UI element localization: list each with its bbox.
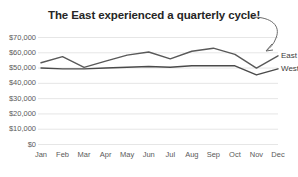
y-axis-tick-label: $10,000 xyxy=(0,124,36,133)
y-axis-tick-label: $60,000 xyxy=(0,48,36,57)
y-axis-tick-label: $30,000 xyxy=(0,94,36,103)
curved-arrow-annotation xyxy=(252,17,277,51)
legend-label-west: West xyxy=(281,64,298,73)
x-axis-tick-label: Aug xyxy=(180,150,204,159)
x-axis-tick-label: Jun xyxy=(137,150,161,159)
x-axis-tick-label: Nov xyxy=(244,150,268,159)
gridlines xyxy=(38,38,278,145)
y-axis-tick-label: $40,000 xyxy=(0,78,36,87)
series-line-west xyxy=(41,66,278,75)
legend-label-east: East xyxy=(281,51,297,60)
x-axis-tick-label: Jan xyxy=(29,150,53,159)
series-line-east xyxy=(41,48,278,68)
x-axis-tick-label: Oct xyxy=(223,150,247,159)
y-axis-tick-label: $20,000 xyxy=(0,109,36,118)
x-axis-tick-label: Jul xyxy=(158,150,182,159)
x-axis-tick-label: Sep xyxy=(201,150,225,159)
line-chart: The East experienced a quarterly cycle! … xyxy=(0,0,298,177)
y-axis-tick-label: $0 xyxy=(0,140,36,149)
y-axis-tick-label: $70,000 xyxy=(0,33,36,42)
x-axis-tick-label: Feb xyxy=(51,150,75,159)
x-axis-tick-label: May xyxy=(115,150,139,159)
x-axis-tick-label: Apr xyxy=(94,150,118,159)
y-axis-tick-label: $50,000 xyxy=(0,63,36,72)
x-axis-tick-label: Dec xyxy=(266,150,290,159)
x-axis-tick-label: Mar xyxy=(72,150,96,159)
series-lines xyxy=(41,48,278,75)
